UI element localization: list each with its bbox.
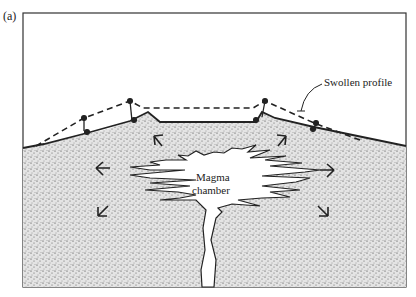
- volcano-swelling-diagram: [0, 0, 416, 297]
- swollen-profile-label: Swollen profile: [324, 76, 392, 88]
- chamber-label: chamber: [192, 184, 230, 196]
- magma-label: Magma: [196, 171, 230, 183]
- label-leader-arrow: [301, 84, 322, 111]
